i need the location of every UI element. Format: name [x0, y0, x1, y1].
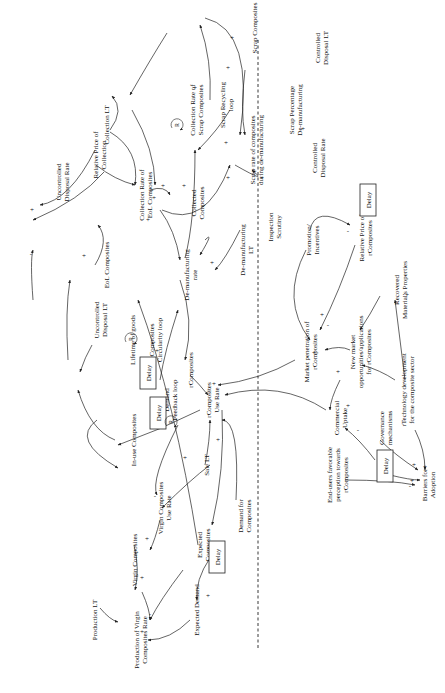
node-market-penetration: Market penetration ofrComposites: [303, 321, 319, 383]
node-label: opportunities/applications: [357, 315, 365, 388]
negative-polarity-sign: -: [357, 426, 360, 434]
node-label: LT: [247, 245, 255, 254]
node-endusers-perception: End-users favorableperception towardsrCo…: [326, 447, 350, 503]
node-label: Barriers for: [421, 468, 429, 501]
node-label: Collected: [190, 189, 198, 216]
node-label: In-use Composites: [130, 414, 138, 467]
node-demanufacturing-lt: De-manufacturingLT: [239, 224, 255, 276]
node-label: Disposal Rate: [63, 162, 71, 201]
node-label: Scrap Composites: [197, 84, 205, 135]
positive-polarity-sign: +: [216, 436, 220, 444]
node-label: Relative Price of: [92, 131, 100, 179]
node-rcomposites: rComposites: [187, 352, 195, 388]
node-governance-mechanisms: Governancemechanisms: [378, 410, 394, 445]
node-label: Sale LT: [203, 453, 211, 475]
positive-polarity-sign: +: [161, 182, 165, 190]
positive-polarity-sign: +: [30, 206, 34, 214]
positive-polarity-sign: +: [206, 592, 210, 600]
node-controlled-disposal-rate: ControlledDisposal Rate: [311, 138, 327, 177]
delay-box-delay-eol: Delay: [140, 357, 156, 389]
node-label: Composites: [245, 499, 253, 532]
node-label: rComposites: [342, 457, 350, 493]
delay-label: Delay: [214, 548, 222, 565]
loop-letter: R: [168, 420, 174, 424]
node-label: EoL Composites: [103, 241, 111, 288]
loop-letter: R: [128, 337, 134, 341]
delay-label: Delay: [145, 364, 153, 381]
variable-labels: UncontrolledDisposal RateRelative Price …: [55, 2, 437, 668]
node-label: Collection Rate of: [138, 169, 146, 221]
node-label: for the composite sector: [408, 356, 416, 424]
node-label: perception towards: [334, 448, 342, 502]
node-promotion-incentives: Promotion/Incentives: [305, 224, 321, 256]
positive-polarity-sign: +: [230, 34, 234, 42]
node-scrap-composites: Scrap Composites: [251, 2, 259, 53]
positive-polarity-sign: +: [182, 182, 186, 190]
node-inspection-scrutiny: InspectionScrutiny: [267, 212, 283, 242]
node-label: Scrap Composites: [251, 2, 259, 53]
positive-polarity-sign: +: [423, 463, 427, 471]
positive-polarity-sign: +: [312, 349, 316, 357]
node-label: Composites Rate: [141, 616, 149, 664]
node-label: Disposal LT: [322, 30, 330, 65]
node-controlled-disposal-lt: ControlledDisposal LT: [314, 30, 330, 65]
node-label: Commercial: [333, 401, 341, 436]
node-label: End-users favorable: [326, 447, 334, 503]
loop-letter: R: [174, 123, 180, 127]
diagram-canvas: UncontrolledDisposal RateRelative Price …: [0, 0, 445, 693]
node-label: Material's Properties: [401, 261, 409, 319]
node-label: Adoption: [429, 471, 437, 498]
node-demand-for-composites: Demand forComposites: [237, 499, 253, 533]
node-label: Disposal Rate: [319, 138, 327, 177]
node-label: Disposal LT: [101, 302, 109, 337]
node-uncontrolled-disposal-rate: UncontrolledDisposal Rate: [55, 162, 71, 201]
node-label: loop: [227, 98, 235, 111]
negative-polarity-sign: -: [347, 227, 350, 235]
delay-label: Delay: [365, 191, 373, 208]
positive-polarity-sign: +: [212, 380, 216, 388]
node-new-market-opportunities: New marketopportunities/applicationsfor …: [349, 315, 373, 388]
node-label: Circularity loop: [156, 317, 164, 362]
node-virgin-composites-use-rate: Virgin CompositesUse Rate: [157, 481, 173, 534]
positive-polarity-sign: +: [346, 402, 350, 410]
node-label: Governance: [378, 411, 386, 445]
node-label: Composites: [198, 186, 206, 219]
delay-label: Delay: [155, 404, 163, 421]
positive-polarity-sign: +: [224, 139, 228, 147]
node-label: De-manufacturing: [183, 249, 191, 301]
node-barriers-adoption: Barriers forAdoption: [421, 468, 437, 501]
delay-box-delay-barriers: Delay: [377, 450, 393, 482]
causal-loop-diagram: UncontrolledDisposal RateRelative Price …: [0, 0, 445, 693]
node-label: mechanisms: [386, 410, 394, 445]
node-label: rTechnology development: [400, 353, 408, 426]
node-relative-price-rcomposites: Relative Price ofrComposites: [358, 214, 374, 262]
node-label: Inspection: [267, 212, 275, 242]
positive-polarity-sign: +: [226, 64, 230, 72]
node-production-lt: Production LT: [91, 599, 99, 640]
positive-polarity-sign: +: [301, 125, 305, 133]
negative-polarity-sign: -: [327, 321, 330, 329]
node-label: Virgin Composites: [157, 481, 165, 534]
positive-polarity-sign: +: [183, 454, 187, 462]
node-production-virgin-rate: Production of VirginComposites Rate: [133, 611, 149, 669]
positive-polarity-sign: +: [405, 291, 409, 299]
node-recovered-material-properties: RecoveredMaterial's Properties: [393, 261, 409, 319]
node-label: Production of Virgin: [133, 611, 141, 669]
node-label: Scrap rate of composites: [249, 115, 257, 184]
node-label: Demand for: [237, 499, 245, 533]
positive-polarity-sign: +: [336, 368, 340, 376]
node-label: Controlled: [311, 143, 319, 173]
positive-polarity-sign: +: [320, 311, 324, 319]
node-label: Expected: [196, 531, 204, 558]
positive-polarity-sign: +: [412, 461, 416, 469]
delay-box-delay-top-right: Delay: [360, 184, 376, 216]
node-label: Expected Demand: [193, 584, 201, 636]
node-label: Production LT: [91, 599, 99, 640]
positive-polarity-sign: +: [140, 628, 144, 636]
node-label: Feedback loop: [171, 379, 179, 421]
node-technology-development: rTechnology developmentfor the composite…: [400, 353, 416, 426]
node-collected-composites: CollectedComposites: [190, 186, 206, 219]
node-label: Controlled: [314, 33, 322, 63]
reinforcing-loop-icon: R: [171, 119, 183, 130]
node-label: Relative Price of: [358, 214, 366, 262]
